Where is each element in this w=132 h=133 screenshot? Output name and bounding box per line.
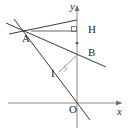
- line-through-a-upper-left: [9, 20, 77, 34]
- tick-mark-segment-hb: [76, 42, 79, 44]
- right-angle-mark-i: [64, 66, 67, 71]
- point-label-h: H: [88, 24, 96, 35]
- point-label-i: I: [51, 68, 55, 79]
- x-axis: [8, 101, 122, 106]
- segment-b-i: [59, 55, 77, 72]
- geometry-figure: A H B I O x y: [0, 0, 132, 133]
- point-label-o: O: [69, 104, 77, 115]
- y-axis-label: y: [70, 1, 75, 12]
- point-label-a: A: [22, 33, 30, 44]
- x-axis-label: x: [117, 106, 122, 117]
- geometry-canvas: [0, 0, 132, 133]
- point-label-b: B: [88, 47, 95, 58]
- y-axis-arrow: [75, 5, 80, 11]
